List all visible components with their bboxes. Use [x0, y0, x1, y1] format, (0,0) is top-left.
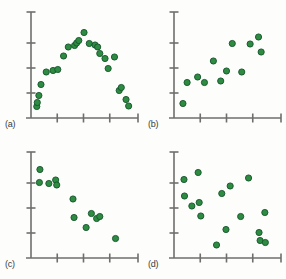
data-points	[34, 29, 132, 109]
data-point	[247, 41, 253, 47]
data-point	[54, 182, 60, 188]
data-point	[195, 169, 201, 175]
data-point	[218, 78, 224, 84]
data-point	[210, 58, 216, 64]
data-point	[46, 180, 52, 186]
data-point	[105, 65, 111, 71]
data-point	[111, 54, 117, 60]
data-point	[112, 235, 118, 241]
data-points	[181, 169, 269, 248]
data-point	[71, 214, 77, 220]
data-point	[198, 213, 204, 219]
data-point	[38, 81, 44, 87]
data-point	[262, 209, 268, 215]
panel-a: (a)	[0, 0, 143, 139]
data-point	[34, 99, 40, 105]
data-point	[255, 34, 261, 40]
panel-b-label: (b)	[148, 120, 158, 129]
data-point	[196, 199, 202, 205]
data-point	[223, 68, 229, 74]
panel-d: (d)	[143, 140, 286, 279]
data-point	[123, 96, 129, 102]
data-point	[118, 84, 124, 90]
panel-d-label: (d)	[148, 260, 158, 269]
data-point	[245, 175, 251, 181]
data-point	[95, 44, 101, 50]
data-point	[102, 55, 108, 61]
data-point	[180, 100, 186, 106]
data-point	[126, 103, 132, 109]
data-point	[36, 179, 42, 185]
data-point	[262, 239, 268, 245]
data-point	[37, 166, 43, 172]
data-point	[184, 79, 190, 85]
scatterplot-figure: (a) (b) (c) (d)	[0, 0, 286, 279]
panel-a-label: (a)	[5, 120, 15, 129]
panel-a-plot	[0, 0, 143, 139]
data-point	[189, 203, 195, 209]
data-point	[219, 190, 225, 196]
data-points	[36, 166, 118, 241]
data-point	[81, 29, 87, 35]
panel-d-plot	[143, 140, 286, 279]
data-point	[181, 176, 187, 182]
data-point	[239, 69, 245, 75]
data-points	[180, 34, 264, 107]
panel-b: (b)	[143, 0, 286, 139]
data-point	[70, 196, 76, 202]
data-point	[227, 183, 233, 189]
data-point	[36, 92, 42, 98]
data-point	[86, 40, 92, 46]
data-point	[83, 224, 89, 230]
panel-c-label: (c)	[5, 260, 15, 269]
data-point	[65, 44, 71, 50]
data-point	[213, 242, 219, 248]
data-point	[258, 49, 264, 55]
data-point	[223, 226, 229, 232]
data-point	[76, 37, 82, 43]
panel-c: (c)	[0, 140, 143, 279]
data-point	[195, 74, 201, 80]
data-point	[229, 40, 235, 46]
panel-b-plot	[143, 0, 286, 139]
data-point	[97, 50, 103, 56]
data-point	[256, 229, 262, 235]
data-point	[88, 210, 94, 216]
data-point	[55, 66, 61, 72]
data-point	[97, 213, 103, 219]
panel-c-plot	[0, 140, 143, 279]
data-point	[60, 53, 66, 59]
data-point	[238, 213, 244, 219]
data-point	[201, 79, 207, 85]
data-point	[43, 69, 49, 75]
data-point	[181, 193, 187, 199]
